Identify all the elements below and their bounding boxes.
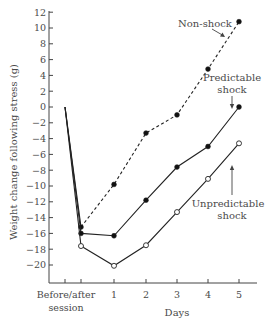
y-tick-label: −6 [32,149,46,160]
y-tick-label: −8 [32,165,46,176]
series-unpredictable-shock [65,107,242,268]
label-unpredictable-line2: shock [217,210,247,221]
x-tick-sublabel: session [48,302,83,313]
label-predictable-line1: Predictable [203,72,261,83]
data-point-filled [112,182,117,187]
label-non-shock: Non-shock [178,18,233,29]
data-point-filled [144,198,149,203]
label-unpredictable-line1: Unpredictable [192,198,265,209]
label-predictable-line2: shock [217,84,247,95]
y-tick-label: 10 [34,22,46,33]
x-axis-title: Days [165,307,190,318]
arrowhead-predictable-icon [230,104,234,109]
data-point-open [206,176,211,181]
y-tick-label: 0 [40,101,46,112]
y-tick-label: −18 [26,244,46,255]
data-point-open [112,263,117,268]
data-point-filled [144,131,149,136]
y-tick-label: 2 [40,86,46,97]
y-tick-label: 4 [40,70,46,81]
series-layer [65,19,242,268]
series-line [81,107,239,236]
data-point-filled [206,67,211,72]
y-tick-label: 12 [34,7,46,18]
x-tick-label: 4 [205,289,211,300]
y-tick-label: −20 [26,259,46,270]
weight-change-line-chart: Weight change following stress (g) 12108… [0,0,268,327]
x-tick-label: 1 [111,289,117,300]
data-point-open [237,141,242,146]
data-point-open [79,244,84,249]
y-tick-label: 8 [40,38,46,49]
x-tick-label: 3 [174,289,180,300]
y-tick-label: −12 [26,196,46,207]
data-point-open [175,210,180,215]
y-tick-label: 6 [40,54,46,65]
data-point-filled [112,233,117,238]
arrowhead-unpredictable-icon [230,165,234,170]
data-point-filled [175,113,180,118]
y-tick-label: −10 [26,180,46,191]
series-annotations: Non-shock Predictable shock Unpredictabl… [178,18,264,221]
x-axis-ticks: Before/aftersession12345 [37,279,242,313]
y-axis-title: Weight change following stress (g) [8,64,19,240]
y-tick-label: −16 [26,228,46,239]
data-point-filled [237,105,242,110]
data-point-filled [206,144,211,149]
x-tick-label: 2 [143,289,149,300]
series-descent-line [65,107,81,246]
arrowhead-non-shock-icon [220,33,225,38]
x-tick-label: Before/after [37,289,96,300]
x-tick-label: 5 [236,289,242,300]
data-point-open [144,243,149,248]
y-tick-label: −14 [26,212,46,223]
y-tick-label: −4 [32,133,46,144]
y-tick-label: −2 [32,117,46,128]
series-line [81,22,239,227]
data-point-filled [175,165,180,170]
data-point-filled [237,19,242,24]
